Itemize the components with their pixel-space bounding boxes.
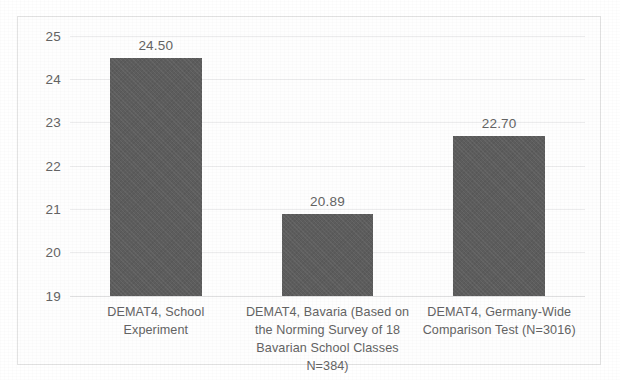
bar-value-label: 20.89 xyxy=(310,194,345,209)
x-axis-category-label-line: Comparison Test (N=3016) xyxy=(417,321,581,339)
y-axis-tick-label: 24 xyxy=(46,71,61,86)
x-axis-category-label-line: DEMAT4, Germany-Wide xyxy=(417,303,581,321)
plot-area: 2524232221201924.5020.8922.70 xyxy=(70,36,585,296)
x-axis-category-label-line: DEMAT4, School Experiment xyxy=(74,303,238,339)
y-axis-tick-label: 22 xyxy=(46,158,61,173)
x-axis-category-labels: DEMAT4, School ExperimentDEMAT4, Bavaria… xyxy=(70,303,585,375)
bar-chart: 2524232221201924.5020.8922.70 DEMAT4, Sc… xyxy=(17,16,601,365)
gridline: 25 xyxy=(70,36,585,37)
x-axis-category-label-line: DEMAT4, Bavaria (Based on xyxy=(246,303,410,321)
bar-value-label: 24.50 xyxy=(138,38,173,53)
x-axis-category-label: DEMAT4, Bavaria (Based onthe Norming Sur… xyxy=(242,303,414,375)
y-axis-tick-label: 25 xyxy=(46,28,61,43)
x-axis-category-label: DEMAT4, Germany-WideComparison Test (N=3… xyxy=(413,303,585,375)
y-axis-tick-label: 20 xyxy=(46,245,61,260)
x-axis-category-label-line: N=384) xyxy=(246,357,410,375)
x-axis-category-label-line: Bavarian School Classes xyxy=(246,339,410,357)
y-axis-tick-label: 23 xyxy=(46,115,61,130)
y-axis-tick-label: 19 xyxy=(46,288,61,303)
bar-value-label: 22.70 xyxy=(482,116,517,131)
x-axis-category-label-line: the Norming Survey of 18 xyxy=(246,321,410,339)
bar: 20.89 xyxy=(282,214,374,296)
bar: 22.70 xyxy=(453,136,545,296)
x-axis-category-label: DEMAT4, School Experiment xyxy=(70,303,242,375)
y-axis-tick-label: 21 xyxy=(46,201,61,216)
bar: 24.50 xyxy=(110,58,202,296)
